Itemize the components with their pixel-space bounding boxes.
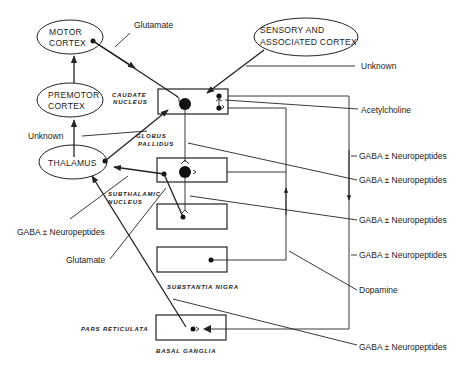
basal-ganglia-diagram: MOTOR CORTEX PREMOTOR CORTEX SENSORY AND…	[0, 0, 473, 370]
svg-text:MOTOR: MOTOR	[49, 27, 82, 37]
svg-text:SENSORY AND: SENSORY AND	[260, 25, 324, 35]
svg-text:BASAL GANGLIA: BASAL GANGLIA	[156, 348, 216, 354]
svg-text:Dopamine: Dopamine	[359, 285, 398, 295]
thalamus-node: THALAMUS	[39, 145, 107, 179]
svg-text:ASSOCIATED CORTEX: ASSOCIATED CORTEX	[260, 37, 357, 47]
svg-text:SUBTHALAMIC: SUBTHALAMIC	[108, 191, 161, 197]
subthalamic-box	[157, 204, 227, 229]
svg-text:PALLIDUS: PALLIDUS	[138, 141, 174, 147]
svg-text:THALAMUS: THALAMUS	[48, 158, 97, 168]
motor-cortex-node: MOTOR CORTEX	[37, 20, 103, 54]
svg-text:Unknown: Unknown	[28, 131, 64, 141]
svg-text:SUBSTANTIA NIGRA: SUBSTANTIA NIGRA	[167, 284, 239, 290]
svg-text:CORTEX: CORTEX	[49, 38, 86, 48]
premotor-cortex-node: PREMOTOR CORTEX	[37, 83, 103, 117]
svg-text:NUCLEUS: NUCLEUS	[113, 99, 148, 105]
svg-text:CAUDATE: CAUDATE	[112, 92, 147, 98]
svg-text:GABA ± Neuropeptides: GABA ± Neuropeptides	[359, 151, 447, 161]
svg-text:PREMOTOR: PREMOTOR	[48, 90, 99, 100]
svg-text:GABA ± Neuropeptides: GABA ± Neuropeptides	[359, 250, 447, 260]
svg-text:GABA ± Neuropeptides: GABA ± Neuropeptides	[359, 215, 447, 225]
svg-text:Glutamate: Glutamate	[134, 20, 173, 30]
svg-text:GABA ± Neuropeptides: GABA ± Neuropeptides	[359, 175, 447, 185]
svg-text:PARS RETICULATA: PARS RETICULATA	[81, 326, 148, 332]
globus-pallidus-box	[157, 158, 227, 182]
caudate-box	[158, 89, 228, 114]
svg-text:GLOBUS: GLOBUS	[136, 133, 166, 139]
svg-text:GABA ± Neuropeptides: GABA ± Neuropeptides	[17, 227, 105, 237]
svg-text:CORTEX: CORTEX	[48, 101, 85, 111]
svg-text:GABA ± Neuropeptides: GABA ± Neuropeptides	[359, 342, 447, 352]
sensory-cortex-node: SENSORY AND ASSOCIATED CORTEX	[254, 18, 358, 56]
svg-text:Unknown: Unknown	[361, 61, 397, 71]
svg-text:Glutamate: Glutamate	[66, 255, 105, 265]
svg-text:NUCLEUS: NUCLEUS	[108, 199, 143, 205]
svg-text:Acetylcholine: Acetylcholine	[361, 105, 411, 115]
substantia-nigra-box	[157, 247, 227, 272]
